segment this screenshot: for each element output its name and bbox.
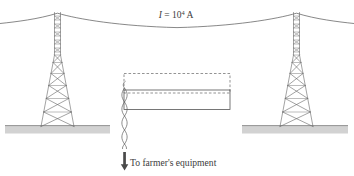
right-tower-leg-outer-right: [300, 13, 314, 127]
left-tower-leg-outer: [41, 13, 55, 127]
right-tower-body-bracing: [280, 55, 313, 127]
twisted-pair-wire: [122, 81, 127, 149]
left-ground-band: [5, 126, 110, 134]
transmission-line-diagram: I = 104 A To farmer's equipment: [0, 0, 354, 176]
figure-container: I = 104 A To farmer's equipment: [0, 0, 354, 176]
ground-group: [5, 126, 348, 134]
arrow-down-icon: [121, 152, 129, 171]
current-unit: A: [185, 10, 194, 20]
current-mantissa: 10: [172, 10, 182, 20]
twisted-wire-top-connector: [123, 81, 125, 88]
left-tower: [41, 13, 74, 127]
left-tower-mast-bracing: [55, 16, 61, 52]
right-ground-band: [242, 126, 348, 134]
right-tower-mast-bracing: [294, 16, 300, 52]
right-tower-leg-outer: [280, 13, 294, 127]
left-tower-leg-outer-right: [61, 13, 75, 127]
equipment-label: To farmer's equipment: [130, 157, 217, 168]
current-equals: =: [162, 10, 172, 20]
current-label: I = 104 A: [158, 9, 194, 20]
left-tower-body-bracing: [41, 55, 74, 127]
direction-arrow: [121, 152, 129, 171]
right-tower: [280, 13, 313, 127]
